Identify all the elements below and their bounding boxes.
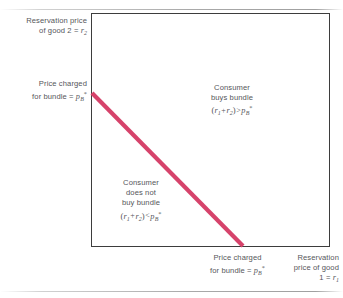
x-axis-label-line1: Reservation — [277, 253, 339, 263]
x-axis-label-sub: 1 — [336, 277, 339, 283]
y-intercept-label-line1: Price charged — [6, 79, 87, 89]
x-intercept-sup: * — [262, 264, 265, 271]
x-axis-label: Reservation price of good 1 = r1 — [277, 253, 339, 286]
nobuy-line3: buy bundle — [95, 198, 187, 208]
x-intercept-label-line1: Price charged — [190, 253, 285, 263]
x-intercept-label: Price charged for bundle = pB* — [190, 253, 285, 278]
y-axis-label-line1: Reservation price — [6, 16, 87, 26]
y-axis-label-sub: 2 — [84, 30, 87, 36]
buys-line2: buys bundle — [186, 93, 278, 103]
nobuy-condition: (r1+r2)<pB* — [95, 209, 187, 224]
y-axis-label: Reservation price of good 2 = r2 — [6, 16, 87, 38]
bundle-pricing-figure: Reservation price of good 2 = r2 Price c… — [0, 0, 343, 298]
y-intercept-label-line2-text: for bundle = — [32, 92, 76, 101]
page-rule-bottom — [0, 291, 343, 292]
x-axis-label-line2: price of good — [277, 263, 339, 273]
x-intercept-label-line2: for bundle = pB* — [190, 263, 285, 278]
y-axis-label-line2: of good 2 = r2 — [6, 26, 87, 38]
x-intercept-label-line2-text: for bundle = — [210, 266, 254, 275]
page-rule-top — [0, 9, 343, 10]
region-label-does-not-buy-bundle: Consumer does not buy bundle (r1+r2)<pB* — [95, 178, 187, 223]
y-intercept-label-line2: for bundle = pB* — [6, 89, 87, 104]
buys-rhs-sup: * — [249, 104, 252, 111]
y-intercept-sup: * — [84, 90, 87, 97]
y-axis-label-line2-text: of good 2 = — [39, 26, 81, 35]
y-intercept-label: Price charged for bundle = pB* — [6, 79, 87, 104]
nobuy-line1: Consumer — [95, 178, 187, 188]
region-label-buys-bundle: Consumer buys bundle (r1+r2)>pB* — [186, 83, 278, 118]
nobuy-rhs-sup: * — [158, 210, 161, 217]
nobuy-line2: does not — [95, 188, 187, 198]
x-axis-label-line3-text: 1 = — [319, 273, 332, 282]
buys-condition: (r1+r2)>pB* — [186, 103, 278, 118]
buys-line1: Consumer — [186, 83, 278, 93]
x-axis-label-line3: 1 = r1 — [277, 273, 339, 285]
